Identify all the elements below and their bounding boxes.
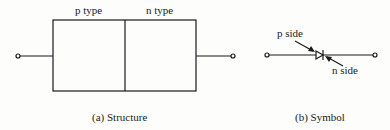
symbol-caption: (b) Symbol — [295, 112, 345, 123]
symbol-right-terminal-icon — [373, 53, 377, 57]
symbol-figure — [265, 41, 377, 66]
structure-caption: (a) Structure — [92, 112, 147, 123]
right-terminal-icon — [231, 54, 235, 58]
left-terminal-icon — [16, 54, 20, 58]
symbol-left-terminal-icon — [265, 53, 269, 57]
n-type-label: n type — [146, 5, 173, 16]
diode-triangle-icon — [316, 51, 323, 59]
p-type-label: p type — [75, 5, 102, 16]
pn-junction-diagram: p type n type (a) Structure p side n sid… — [0, 0, 390, 130]
n-side-label: n side — [332, 65, 358, 76]
structure-figure — [16, 20, 235, 91]
p-side-label: p side — [277, 28, 303, 39]
